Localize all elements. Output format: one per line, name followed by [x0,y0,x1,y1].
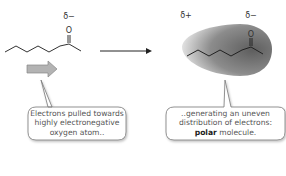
right-callout-line-3: polar molecule. [166,128,285,137]
right-callout-line-1: ..generating an uneven [166,109,285,118]
right-delta-minus-label: δ− [245,11,257,20]
left-callout-line-1: Electrons pulled towards [28,109,126,118]
right-callout-line-3-rest: molecule. [217,128,256,137]
left-callout-line-3: oxygen atom.. [28,128,126,137]
left-oxygen-label: O [66,26,72,35]
electron-cloud [182,24,272,76]
left-molecule [5,35,81,52]
reaction-arrow [100,48,152,54]
right-oxygen-label: O [248,30,254,39]
left-callout-text: Electrons pulled towards highly electron… [28,109,126,137]
left-carbon-chain [5,44,81,52]
electron-pull-arrow-icon [27,61,57,77]
right-callout-text: ..generating an uneven distribution of e… [166,109,285,137]
right-callout-line-2: distribution of electrons: [166,118,285,127]
left-callout-line-2: highly electronegative [28,118,126,127]
polar-keyword: polar [195,128,217,137]
polarity-diagram: O δ− O δ+ δ− [0,0,286,176]
left-delta-minus-label: δ− [63,12,75,21]
right-delta-plus-label: δ+ [180,11,192,20]
